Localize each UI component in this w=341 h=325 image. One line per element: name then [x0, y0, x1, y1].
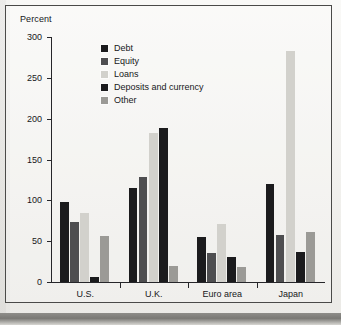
- figure-frame: Percent 050100150200250300 U.S.U.K.Euro …: [5, 5, 332, 303]
- y-tick-label: 0: [6, 277, 42, 287]
- bar: [197, 237, 206, 282]
- x-axis-category-label: Euro area: [188, 289, 257, 299]
- legend-swatch-icon: [101, 71, 108, 78]
- y-tick-mark: [47, 241, 52, 242]
- y-tick-mark: [47, 160, 52, 161]
- bar: [217, 224, 226, 282]
- x-axis-category-label: U.K.: [120, 289, 189, 299]
- legend-item: Deposits and currency: [101, 81, 204, 93]
- bar: [276, 235, 285, 282]
- bar: [286, 51, 295, 282]
- chart-plot-area: Percent 050100150200250300 U.S.U.K.Euro …: [6, 6, 333, 304]
- bar: [159, 128, 168, 282]
- bar: [70, 222, 79, 282]
- bar: [129, 188, 138, 282]
- legend-item-label: Deposits and currency: [114, 82, 204, 92]
- bar: [100, 236, 109, 282]
- x-axis-separator-tick: [120, 283, 121, 288]
- y-tick-mark: [47, 78, 52, 79]
- legend-item: Equity: [101, 55, 204, 67]
- x-axis-category-label: U.S.: [51, 289, 120, 299]
- y-tick-label: 100: [6, 195, 42, 205]
- legend-item-label: Loans: [114, 69, 139, 79]
- bar: [227, 257, 236, 282]
- y-axis-title: Percent: [20, 14, 52, 24]
- bar: [296, 252, 305, 282]
- x-axis-separator-tick: [257, 283, 258, 288]
- y-tick-label: 50: [6, 236, 42, 246]
- page-bottom-edge-shadow: [0, 313, 341, 325]
- legend-item-label: Equity: [114, 56, 139, 66]
- bar: [306, 232, 315, 282]
- bar: [139, 177, 148, 282]
- legend-item: Debt: [101, 42, 204, 54]
- x-axis-category-label: Japan: [257, 289, 326, 299]
- bar: [169, 266, 178, 282]
- bar: [266, 184, 275, 282]
- y-tick-mark: [47, 119, 52, 120]
- bar: [207, 253, 216, 282]
- legend-swatch-icon: [101, 58, 108, 65]
- legend-swatch-icon: [101, 97, 108, 104]
- chart-legend: DebtEquityLoansDeposits and currencyOthe…: [101, 42, 204, 107]
- bar: [149, 133, 158, 282]
- legend-swatch-icon: [101, 84, 108, 91]
- legend-item-label: Debt: [114, 43, 133, 53]
- y-tick-label: 150: [6, 155, 42, 165]
- bar: [80, 213, 89, 282]
- y-tick-label: 200: [6, 114, 42, 124]
- y-tick-label: 250: [6, 73, 42, 83]
- y-tick-label: 300: [6, 32, 42, 42]
- y-tick-mark: [47, 37, 52, 38]
- y-tick-mark: [47, 200, 52, 201]
- legend-item: Other: [101, 94, 204, 106]
- bar: [237, 267, 246, 282]
- bar: [60, 202, 69, 282]
- legend-item: Loans: [101, 68, 204, 80]
- x-axis-separator-tick: [188, 283, 189, 288]
- bar: [90, 277, 99, 282]
- legend-swatch-icon: [101, 45, 108, 52]
- legend-item-label: Other: [114, 95, 137, 105]
